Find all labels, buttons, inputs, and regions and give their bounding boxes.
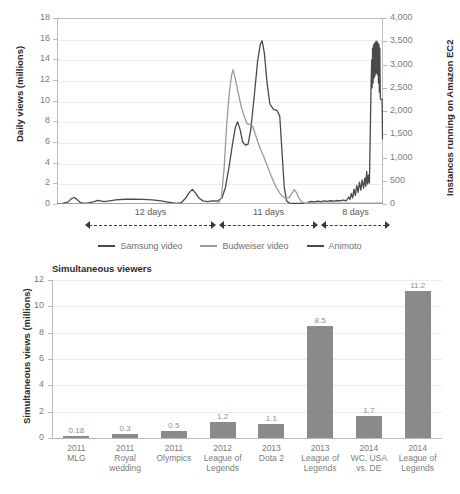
- bar-chart-bar[interactable]: [405, 291, 431, 438]
- bar-value-label: 0.3: [101, 424, 150, 433]
- line-chart-y2-tick: 2,000: [390, 106, 430, 115]
- line-chart-y-tickmark: [53, 39, 57, 40]
- line-chart-y-tick: 8: [22, 116, 50, 125]
- bar-category-label-line: 2011: [101, 443, 150, 453]
- bar-chart-y-tick: 0: [20, 433, 44, 442]
- bar-value-label: 1.1: [247, 414, 296, 423]
- line-series-animoto: [308, 41, 382, 202]
- bar-chart-y-tickmark: [48, 412, 52, 413]
- bar-chart-y-tick: 8: [20, 328, 44, 337]
- line-chart-y-tick: 10: [22, 96, 50, 105]
- legend-item-animoto[interactable]: Animoto: [307, 241, 362, 251]
- line-chart-y2-tickmark: [383, 65, 387, 66]
- bar-category-label-line: 2012: [198, 443, 247, 453]
- line-chart-y-tickmark: [53, 18, 57, 19]
- bar-category-label-line: Dota 2: [247, 453, 296, 463]
- bar-chart-bar[interactable]: [112, 434, 138, 438]
- line-chart-y-tickmark: [53, 183, 57, 184]
- line-chart-y2-tickmark: [383, 88, 387, 89]
- bar-chart-y-tick: 6: [20, 354, 44, 363]
- line-chart-y-tickmark: [53, 80, 57, 81]
- bar-value-label: 1.2: [198, 412, 247, 421]
- day-span-label: 11 days: [219, 207, 318, 217]
- bar-category-label-line: 2011: [52, 443, 101, 453]
- bar-chart-title: Simultaneous viewers: [52, 263, 152, 274]
- bar-chart-y-tickmark: [48, 385, 52, 386]
- bar-category-label: 2013Dota 2: [247, 443, 296, 463]
- bar-category-label-line: League of: [393, 453, 442, 463]
- dashed-line: [89, 225, 212, 226]
- bar-chart-y-tick: 4: [20, 380, 44, 389]
- line-chart-y2-tick: 1,500: [390, 129, 430, 138]
- bar-chart-bar[interactable]: [210, 422, 236, 438]
- line-chart-series-layer: [57, 18, 383, 204]
- dashed-line: [223, 225, 314, 226]
- bar-category-label: 2011Olympics: [150, 443, 199, 463]
- bar-chart-bar[interactable]: [63, 436, 89, 438]
- bar-category-label-line: 2014: [345, 443, 394, 453]
- legend-item-budweiser-video[interactable]: Budweiser video: [200, 241, 288, 251]
- bar-chart-y-tickmark: [48, 359, 52, 360]
- line-chart-y2-tickmark: [383, 204, 387, 205]
- bar-chart-bar[interactable]: [258, 424, 284, 438]
- arrow-right-icon: [313, 221, 318, 229]
- line-chart-y-tick: 6: [22, 137, 50, 146]
- bar-value-label: 8.5: [296, 316, 345, 325]
- bar-category-label: 2011MLG: [52, 443, 101, 463]
- line-chart-y2-tick: 2,500: [390, 83, 430, 92]
- line-chart-y-tickmark: [53, 101, 57, 102]
- bar-category-label-line: Olympics: [150, 453, 199, 463]
- bar-chart-gridline: [52, 306, 442, 307]
- line-chart-y2-axis-title: Instances running on Amazon EC2: [444, 40, 455, 196]
- bar-chart-bar[interactable]: [356, 416, 382, 438]
- arrow-right-icon: [385, 221, 390, 229]
- line-chart-y2-tick: 0: [390, 199, 430, 208]
- line-chart-y2-tick: 1,000: [390, 153, 430, 162]
- line-chart-y-tickmark: [53, 204, 57, 205]
- legend-swatch-icon: [200, 245, 217, 247]
- line-chart-y2-tickmark: [383, 181, 387, 182]
- line-chart-legend: Samsung videoBudweiser videoAnimoto: [0, 238, 460, 254]
- line-chart-y-tickmark: [53, 142, 57, 143]
- bar-chart-y-tick: 10: [20, 301, 44, 310]
- arrow-right-icon: [211, 221, 216, 229]
- line-chart-y2-tick: 4,000: [390, 13, 430, 22]
- line-series-samsung-video: [57, 41, 383, 204]
- line-chart-y-tick: 2: [22, 178, 50, 187]
- bar-value-label: 0.18: [52, 426, 101, 435]
- bar-category-label-line: Legends: [393, 463, 442, 473]
- legend-item-samsung-video[interactable]: Samsung video: [98, 241, 182, 251]
- line-chart-y-tickmark: [53, 163, 57, 164]
- bar-chart-y-tickmark: [48, 333, 52, 334]
- bar-category-label-line: Royal: [101, 453, 150, 463]
- bar-category-label-line: 2011: [150, 443, 199, 453]
- bar-value-label: 1.7: [345, 406, 394, 415]
- day-span-arrow: [219, 221, 318, 230]
- line-chart-y-tick: 4: [22, 158, 50, 167]
- legend-swatch-icon: [307, 245, 324, 247]
- bar-category-label-line: League of: [296, 453, 345, 463]
- dashed-line: [325, 225, 386, 226]
- bar-category-label-line: 2014: [393, 443, 442, 453]
- bar-chart-gridline: [52, 359, 442, 360]
- bar-category-label: 2011Royalwedding: [101, 443, 150, 473]
- bar-chart-bar[interactable]: [307, 326, 333, 438]
- bar-chart-gridline: [52, 385, 442, 386]
- legend-label: Animoto: [329, 241, 362, 251]
- line-chart-y2-tickmark: [383, 158, 387, 159]
- legend-label: Samsung video: [120, 241, 182, 251]
- bar-chart-bar[interactable]: [161, 431, 187, 438]
- bar-chart-y-tickmark: [48, 306, 52, 307]
- line-chart-y-tick: 16: [22, 34, 50, 43]
- day-span-label: 12 days: [85, 207, 216, 217]
- line-chart-y-tick: 0: [22, 199, 50, 208]
- bar-category-label: 2014WC, USAvs. DE: [345, 443, 394, 473]
- day-span-label: 8 days: [321, 207, 390, 217]
- line-chart-y-tickmark: [53, 121, 57, 122]
- line-chart-y2-tickmark: [383, 111, 387, 112]
- bar-category-label: 2012League ofLegends: [198, 443, 247, 473]
- legend-swatch-icon: [98, 245, 115, 247]
- line-chart-y2-tick: 3,000: [390, 60, 430, 69]
- bar-category-label-line: Legends: [198, 463, 247, 473]
- line-chart-y-tickmark: [53, 59, 57, 60]
